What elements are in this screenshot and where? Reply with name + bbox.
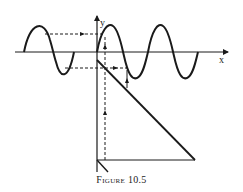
input-sine-wave	[24, 26, 74, 74]
corner-slash	[97, 160, 108, 172]
arrow-up-icon	[103, 110, 107, 115]
arrow-right-icon	[80, 32, 85, 36]
y-axis-label: y	[100, 17, 105, 28]
caption-number: 10.5	[128, 174, 147, 185]
arrow-up-icon	[103, 44, 107, 49]
figure-caption: Figure 10.5	[0, 174, 243, 185]
x-axis-label: x	[219, 54, 224, 65]
figure-diagram: x y	[0, 0, 243, 192]
arrow-right-icon	[113, 66, 118, 70]
caption-word: Figure	[96, 174, 125, 185]
arrow-up-icon	[125, 78, 129, 83]
